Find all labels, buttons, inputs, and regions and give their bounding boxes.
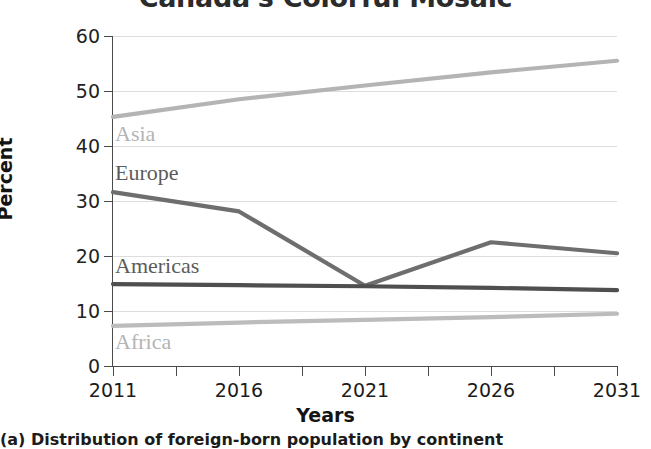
series-line-africa — [113, 314, 617, 326]
series-label-africa: Africa — [115, 329, 171, 355]
series-line-asia — [113, 61, 617, 117]
series-label-americas: Americas — [115, 253, 199, 279]
series-label-europe: Europe — [115, 160, 179, 186]
series-label-asia: Asia — [115, 121, 155, 147]
series-line-americas — [113, 284, 617, 290]
figure-caption: (a) Distribution of foreign-born populat… — [0, 430, 651, 449]
